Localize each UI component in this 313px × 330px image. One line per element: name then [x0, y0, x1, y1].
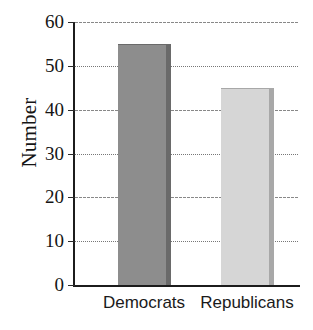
- gridline: [75, 22, 298, 23]
- plot-area: 0102030405060: [73, 22, 300, 287]
- bar-face: [118, 44, 166, 285]
- y-axis-tick: [68, 285, 75, 286]
- bar-side-edge: [269, 88, 274, 285]
- y-axis-tick: [68, 66, 75, 67]
- bar-side-edge: [166, 44, 171, 285]
- gridline: [75, 66, 298, 67]
- bar-top-edge: [118, 44, 171, 45]
- y-axis-title: Number: [17, 63, 42, 203]
- y-axis-tick-label: 10: [45, 230, 64, 252]
- category-label-republicans: Republicans: [177, 293, 313, 313]
- y-axis-tick-label: 20: [45, 186, 64, 208]
- y-axis-tick-label: 0: [55, 274, 65, 296]
- bar-chart-figure: Number 0102030405060 DemocratsRepublican…: [0, 0, 313, 330]
- y-axis-tick: [68, 241, 75, 242]
- bar-republicans: [221, 88, 274, 285]
- y-axis-tick-label: 40: [45, 99, 64, 121]
- y-axis-tick-label: 50: [45, 55, 64, 77]
- y-axis-tick: [68, 154, 75, 155]
- y-axis-tick-label: 30: [45, 143, 64, 165]
- bar-top-edge: [221, 88, 274, 89]
- y-axis-spine: [73, 22, 75, 287]
- bar-democrats: [118, 44, 171, 285]
- x-axis-baseline: [73, 285, 300, 287]
- y-axis-tick: [68, 22, 75, 23]
- bar-face: [221, 88, 269, 285]
- y-axis-tick: [68, 197, 75, 198]
- y-axis-tick-label: 60: [45, 11, 64, 33]
- y-axis-tick: [68, 110, 75, 111]
